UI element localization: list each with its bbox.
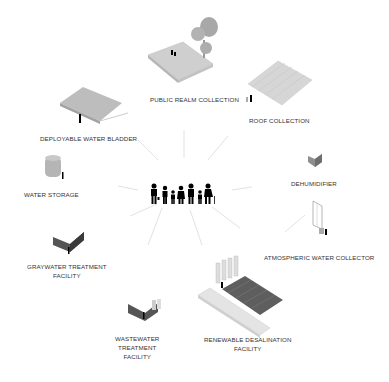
label-line: FACILITY bbox=[27, 271, 107, 280]
label-renewable-desalination-facility: RENEWABLE DESALINATION FACILITY bbox=[204, 335, 291, 353]
label-line: TREATMENT bbox=[115, 343, 159, 352]
label-line: FACILITY bbox=[115, 352, 159, 361]
public-realm-illustration bbox=[148, 17, 218, 83]
label-line: RENEWABLE DESALINATION bbox=[204, 335, 291, 344]
desalination-illustration bbox=[198, 256, 283, 338]
bladder-illustration bbox=[60, 87, 128, 124]
label-wastewater-treatment-facility: WASTEWATER TREATMENT FACILITY bbox=[115, 334, 159, 361]
label-deployable-water-bladder: DEPLOYABLE WATER BLADDER bbox=[40, 134, 137, 143]
dehumidifier-illustration bbox=[308, 154, 322, 167]
atmospheric-illustration bbox=[313, 201, 327, 235]
label-line: FACILITY bbox=[204, 344, 291, 353]
spoke-lines bbox=[118, 130, 305, 245]
label-water-storage: WATER STORAGE bbox=[24, 190, 79, 199]
label-public-realm-collection: PUBLIC REALM COLLECTION bbox=[150, 95, 239, 104]
label-graywater-treatment-facility: GRAYWATER TREATMENT FACILITY bbox=[27, 262, 107, 280]
family-icon bbox=[151, 184, 215, 205]
wastewater-illustration bbox=[128, 299, 161, 321]
storage-illustration bbox=[45, 155, 64, 179]
label-dehumidifier: DEHUMIDIFIER bbox=[291, 179, 337, 188]
label-line: WASTEWATER bbox=[115, 334, 159, 343]
label-atmospheric-water-collector: ATMOSPHERIC WATER COLLECTOR bbox=[264, 253, 374, 262]
label-line: GRAYWATER TREATMENT bbox=[27, 262, 107, 271]
roof-illustration bbox=[246, 61, 312, 105]
graywater-illustration bbox=[53, 232, 84, 254]
label-roof-collection: ROOF COLLECTION bbox=[249, 116, 310, 125]
